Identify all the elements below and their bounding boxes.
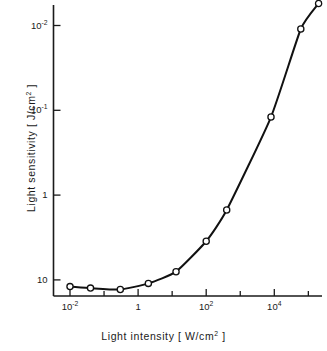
series-line bbox=[70, 3, 319, 289]
y-axis-title-text: Light sensitivity [ J/cm bbox=[25, 95, 37, 212]
x-tick-label: 102 bbox=[186, 301, 226, 312]
y-axis-title: Light sensitivity [ J/cm2 ] bbox=[25, 8, 37, 288]
x-axis-title-tail: ] bbox=[219, 330, 226, 342]
x-axis-title-text: Light intensity [ W/cm bbox=[101, 330, 214, 342]
y-tick-label-exponent: -1 bbox=[41, 103, 47, 110]
data-point bbox=[298, 26, 304, 32]
x-tick-label-mantissa: 10 bbox=[267, 301, 278, 312]
y-axis-title-tail: ] bbox=[25, 84, 37, 91]
data-point bbox=[67, 284, 73, 290]
x-tick-label-exponent: -2 bbox=[72, 300, 78, 307]
axis-lines bbox=[54, 5, 323, 296]
plot-canvas bbox=[0, 0, 327, 351]
y-axis-title-superscript: 2 bbox=[25, 91, 32, 95]
x-axis-title: Light intensity [ W/cm2 ] bbox=[0, 330, 327, 342]
y-axis-title-wrapper: Light sensitivity [ J/cm2 ] bbox=[25, 8, 41, 288]
x-tick-label: 10-2 bbox=[50, 301, 90, 312]
data-point bbox=[203, 238, 209, 244]
x-tick-label-mantissa: 10 bbox=[62, 301, 73, 312]
y-tick-marks bbox=[54, 26, 61, 280]
x-tick-label-mantissa: 1 bbox=[135, 301, 140, 312]
x-tick-label: 104 bbox=[254, 301, 294, 312]
x-tick-label-mantissa: 10 bbox=[199, 301, 210, 312]
data-curve bbox=[70, 3, 319, 289]
x-tick-label-exponent: 2 bbox=[210, 300, 214, 307]
data-point bbox=[117, 286, 123, 292]
x-tick-label-exponent: 4 bbox=[278, 300, 282, 307]
data-point bbox=[145, 280, 151, 286]
data-point bbox=[87, 285, 93, 291]
data-point bbox=[316, 0, 322, 6]
y-tick-label-exponent: -2 bbox=[41, 18, 47, 25]
chart-figure: 10-21102104 10-210-1110 Light intensity … bbox=[0, 0, 327, 351]
x-tick-label: 1 bbox=[118, 301, 158, 312]
y-tick-label-mantissa: 1 bbox=[42, 189, 47, 200]
data-point bbox=[268, 114, 274, 120]
data-point-markers bbox=[67, 0, 322, 292]
data-point bbox=[173, 269, 179, 275]
data-point bbox=[224, 207, 230, 213]
